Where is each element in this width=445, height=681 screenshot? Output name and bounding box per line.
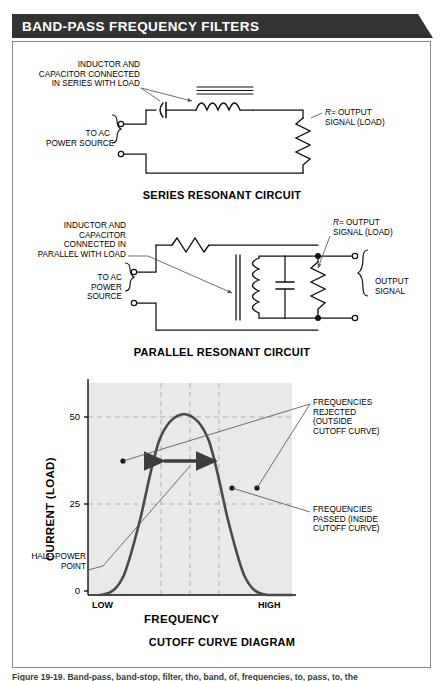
chart-xtick-high: HIGH bbox=[258, 600, 281, 610]
chart-ytick-50: 50 bbox=[56, 411, 80, 422]
fig3-title: CUTOFF CURVE DIAGRAM bbox=[72, 636, 372, 648]
fig1-load-text: = OUTPUT SIGNAL (LOAD) bbox=[325, 108, 385, 127]
fig1-source-label: TO AC POWER SOURCE bbox=[46, 129, 110, 148]
fig2-load-text: = OUTPUT SIGNAL (LOAD) bbox=[333, 218, 393, 237]
fig1-load-label: R= OUTPUT SIGNAL (LOAD) bbox=[325, 108, 425, 127]
chart-callout-passed: FREQUENCIES PASSED (INSIDE CUTOFF CURVE) bbox=[313, 505, 431, 534]
chart-ytick-0: 0 bbox=[56, 585, 80, 596]
chart-callout-rejected: FREQUENCIES REJECTED (OUTSIDE CUTOFF CUR… bbox=[313, 398, 431, 436]
chart-xaxis-label: FREQUENCY bbox=[144, 613, 219, 625]
fig1-title: SERIES RESONANT CIRCUIT bbox=[72, 189, 372, 201]
chart-callout-halfpower: HALF-POWER POINT bbox=[16, 552, 86, 571]
fig1-callout-lc: INDUCTOR AND CAPACITOR CONNECTED IN SERI… bbox=[34, 60, 140, 89]
figure-page: BAND-PASS FREQUENCY FILTERS bbox=[0, 0, 445, 681]
chart-xtick-low: LOW bbox=[92, 600, 113, 610]
fig2-title: PARALLEL RESONANT CIRCUIT bbox=[72, 346, 372, 358]
fig2-source-label: TO AC POWER SOURCE bbox=[62, 273, 122, 302]
fig2-callout-lc: INDUCTOR AND CAPACITOR CONNECTED IN PARA… bbox=[20, 221, 126, 259]
figure-caption: Figure 19-19. Band-pass, band-stop, filt… bbox=[12, 672, 433, 681]
chart-ytick-25: 25 bbox=[56, 498, 80, 509]
fig2-load-label: R= OUTPUT SIGNAL (LOAD) bbox=[333, 218, 433, 237]
chart-yaxis-label: CURRENT (LOAD) bbox=[44, 457, 56, 561]
section-title: BAND-PASS FREQUENCY FILTERS bbox=[22, 19, 259, 34]
fig2-output-label: OUTPUT SIGNAL bbox=[375, 277, 435, 296]
